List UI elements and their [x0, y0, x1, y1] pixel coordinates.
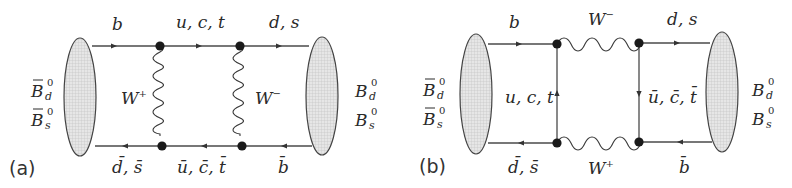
final-state-label: B 0 d B 0 s — [751, 76, 774, 131]
label-w-minus: W− — [588, 9, 614, 29]
label-bottom-right-quark: b̄ — [679, 155, 690, 177]
meson-sup: 0 — [768, 76, 774, 87]
final-meson-blob — [306, 37, 338, 155]
final-state-label: B 0 d B 0 s — [354, 77, 377, 132]
vertex — [552, 39, 561, 48]
vertex — [634, 38, 643, 47]
arrow-right-icon — [276, 43, 282, 48]
meson-base: B — [751, 109, 765, 129]
arrow-left-icon — [281, 143, 287, 148]
label-top-right-quark: d, s — [667, 9, 698, 29]
meson-sub: d — [437, 89, 444, 102]
vertex — [157, 141, 166, 150]
meson-sup: 0 — [371, 106, 377, 117]
meson-sup: 0 — [768, 105, 774, 116]
arrow-right-icon — [111, 43, 117, 48]
vertex — [552, 138, 561, 147]
initial-state-label: B 0 d B 0 s — [422, 76, 445, 131]
vertex — [634, 137, 643, 146]
meson-base: B — [422, 80, 436, 100]
meson-sup: 0 — [47, 106, 53, 117]
panel-a: b u, c, t d, s d̄, s̄ ū, c̄, t̄ b̄ W+ W−… — [9, 12, 377, 179]
arrow-down-icon — [636, 91, 641, 97]
meson-sup: 0 — [47, 77, 53, 88]
label-top-left-quark: b — [112, 14, 123, 34]
label-w-plus: W+ — [121, 88, 147, 108]
meson-base: B — [422, 109, 436, 129]
panel-b: b d, s u, c, t ū, c̄, t̄ d̄, s̄ b̄ W− W+… — [419, 9, 774, 178]
arrow-up-icon — [554, 90, 559, 96]
vertex — [235, 41, 244, 50]
meson-sub: d — [45, 90, 52, 103]
meson-sub: s — [766, 118, 772, 131]
w-plus-boson-line — [153, 46, 164, 136]
w-plus-boson-line — [557, 137, 641, 150]
arrow-right-icon — [196, 43, 202, 48]
initial-state-label: B 0 d B 0 s — [30, 77, 53, 132]
label-bottom-left-quark: d̄, s̄ — [112, 155, 143, 177]
panel-tag-a: (a) — [9, 157, 35, 179]
label-bottom-left-quark: d̄, s̄ — [508, 155, 539, 177]
arrow-left-icon — [201, 143, 207, 148]
final-meson-blob — [706, 32, 738, 152]
label-top-right-quark: d, s — [269, 12, 300, 32]
meson-sup: 0 — [371, 77, 377, 88]
meson-sub: s — [369, 119, 375, 132]
meson-sub: d — [766, 89, 773, 102]
feynman-box-diagrams: b u, c, t d, s d̄, s̄ ū, c̄, t̄ b̄ W+ W−… — [0, 0, 792, 188]
meson-sub: s — [437, 118, 443, 131]
label-w-minus: W− — [255, 88, 281, 108]
label-top-left-quark: b — [509, 12, 520, 32]
panel-tag-b: (b) — [419, 155, 446, 177]
initial-meson-blob — [64, 38, 96, 156]
label-w-plus: W+ — [588, 158, 614, 178]
meson-base: B — [354, 81, 368, 101]
meson-sup: 0 — [439, 105, 445, 116]
w-minus-boson-line — [557, 38, 641, 51]
label-bottom-right-quark: b̄ — [278, 155, 289, 177]
vertex — [155, 41, 164, 50]
w-minus-boson-line — [233, 46, 244, 136]
meson-base: B — [751, 80, 765, 100]
meson-base: B — [30, 110, 44, 130]
label-left-vertical-quark: u, c, t — [505, 87, 554, 107]
label-bottom-mid-quark: ū, c̄, t̄ — [177, 155, 226, 177]
vertex — [237, 141, 246, 150]
meson-sub: d — [369, 90, 376, 103]
meson-sub: s — [45, 119, 51, 132]
arrow-left-icon — [122, 143, 128, 148]
meson-base: B — [354, 110, 368, 130]
arrow-right-icon — [516, 41, 522, 46]
arrow-left-icon — [518, 140, 524, 145]
arrow-right-icon — [674, 40, 680, 45]
label-top-mid-quark: u, c, t — [176, 12, 225, 32]
meson-sup: 0 — [439, 76, 445, 87]
meson-base: B — [30, 81, 44, 101]
initial-meson-blob — [460, 34, 492, 154]
label-right-vertical-quark: ū, c̄, t̄ — [648, 85, 697, 107]
arrow-left-icon — [677, 139, 683, 144]
